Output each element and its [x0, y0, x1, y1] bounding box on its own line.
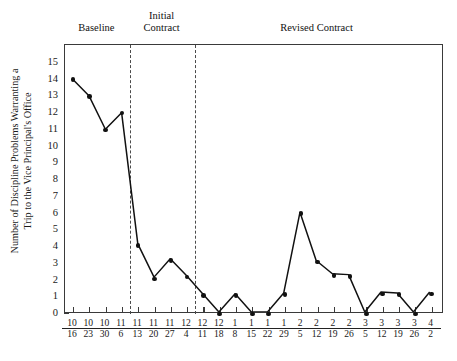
data-point: [217, 312, 222, 317]
y-tick-label: 0: [36, 308, 58, 318]
y-tick-label: 8: [36, 174, 58, 184]
y-tick-label: 13: [36, 90, 58, 100]
data-point: [103, 128, 108, 133]
phase-label-revised-contract: Revised Contract: [257, 22, 377, 34]
x-tick-day: 2: [421, 328, 441, 339]
y-tick-label: 3: [36, 258, 58, 268]
x-tick-month: 4: [421, 318, 441, 328]
data-point: [266, 312, 271, 317]
data-point: [364, 312, 369, 317]
y-axis-title: Number of Discipline Problems Warranting…: [8, 36, 34, 286]
data-point: [332, 273, 337, 278]
data-point: [169, 258, 174, 263]
y-tick-label: 10: [36, 141, 58, 151]
data-point: [380, 292, 385, 297]
data-point: [234, 293, 239, 298]
y-tick-label: 4: [36, 241, 58, 251]
data-point: [152, 277, 157, 282]
y-tick-label: 15: [36, 57, 58, 67]
data-point: [429, 292, 434, 297]
data-point: [250, 312, 255, 317]
phase-label-initial-contract: Initial Contract: [102, 10, 222, 33]
data-line-path: [65, 45, 442, 312]
y-tick-label: 5: [36, 224, 58, 234]
y-tick-label: 11: [36, 124, 58, 134]
data-point: [413, 312, 418, 317]
y-tick-label: 6: [36, 208, 58, 218]
data-point: [348, 274, 353, 279]
chart-figure: Baseline Initial Contract Revised Contra…: [0, 0, 457, 361]
y-tick-label: 12: [36, 107, 58, 117]
y-tick-label: 1: [36, 291, 58, 301]
y-tick-label: 7: [36, 191, 58, 201]
x-tick-label: 42: [421, 318, 441, 339]
y-tick-label: 9: [36, 157, 58, 167]
y-tick-label: 2: [36, 275, 58, 285]
data-point: [87, 94, 92, 99]
data-point: [201, 293, 206, 298]
plot-area: [64, 44, 443, 313]
y-tick-label: 14: [36, 74, 58, 84]
